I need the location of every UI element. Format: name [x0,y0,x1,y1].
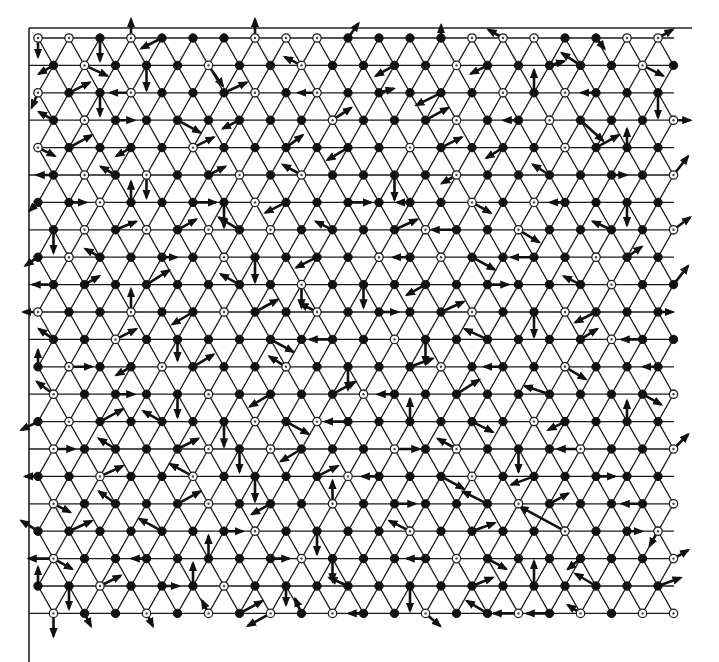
filled-node [142,500,150,508]
diagonal-bond [488,257,504,284]
diagonal-bond [302,120,318,147]
filled-node [638,171,646,179]
diagonal-bond [410,559,426,586]
filled-node [561,582,569,590]
filled-node [204,335,212,343]
filled-node [406,198,414,206]
filled-node [297,609,305,617]
diagonal-bond [395,367,411,394]
open-node-center [130,311,132,313]
filled-node [111,226,119,234]
open-node-center [424,229,426,231]
diagonal-bond [317,339,333,366]
filled-node [158,417,166,425]
filled-node [375,198,383,206]
diagonal-bond [116,394,132,421]
filled-node [607,171,615,179]
diagonal-bond [658,285,674,312]
filled-node [638,280,646,288]
open-node-center [269,612,271,614]
diagonal-bond [581,531,597,558]
diagonal-bond [131,531,147,558]
filled-node [251,472,259,480]
diagonal-bond [395,257,411,284]
filled-node [173,280,181,288]
filled-node [251,143,259,151]
filled-node [452,335,460,343]
diagonal-bond [286,312,302,339]
filled-node [654,198,662,206]
diagonal-bond [317,148,333,175]
filled-node [375,89,383,97]
diagonal-bond [379,175,395,202]
open-node-center [145,174,147,176]
filled-node [576,171,584,179]
diagonal-bond [410,93,426,120]
diagonal-bond [69,586,85,613]
filled-node [623,527,631,535]
filled-node [406,89,414,97]
diagonal-bond [534,230,550,257]
diagonal-bond [240,339,256,366]
diagonal-bond [627,422,643,449]
diagonal-bond [627,559,643,586]
diagonal-bond [286,476,302,503]
filled-node [530,89,538,97]
open-node-center [52,503,54,505]
diagonal-bond [364,476,380,503]
diagonal-bond [503,148,519,175]
diagonal-bond [348,586,364,613]
diagonal-bond [581,38,597,65]
diagonal-bond [550,257,566,284]
diagonal-bond [627,285,643,312]
diagonal-bond [116,120,132,147]
filled-node [359,116,367,124]
filled-node [49,226,57,234]
diagonal-bond [612,202,628,229]
filled-node [282,253,290,261]
filled-node [638,500,646,508]
filled-node [142,61,150,69]
diagonal-bond [364,148,380,175]
diagonal-bond [333,339,349,366]
filled-node [127,582,135,590]
filled-node [421,445,429,453]
diagonal-bond [488,504,504,531]
filled-node [204,280,212,288]
filled-node [592,527,600,535]
open-node-center [83,64,85,66]
diagonal-bond [581,367,597,394]
diagonal-bond [224,339,240,366]
diagonal-bond [627,175,643,202]
filled-node [638,335,646,343]
diagonal-bond [596,175,612,202]
open-node-center [52,393,54,395]
diagonal-bond [612,476,628,503]
filled-node [514,554,522,562]
filled-node [452,609,460,617]
open-node-center [52,448,54,450]
filled-node [313,253,321,261]
diagonal-bond [116,586,132,613]
diagonal-bond [596,148,612,175]
filled-node [189,253,197,261]
filled-node [251,582,259,590]
diagonal-bond [534,65,550,92]
filled-node [189,417,197,425]
diagonal-bond [410,449,426,476]
filled-node [638,390,646,398]
filled-node [266,554,274,562]
filled-node [654,89,662,97]
open-node-center [130,92,132,94]
diagonal-bond [379,504,395,531]
filled-node [251,363,259,371]
diagonal-bond [224,504,240,531]
filled-node [421,390,429,398]
open-node-center [672,119,674,121]
filled-node [545,445,553,453]
filled-node [189,527,197,535]
filled-node [344,34,352,42]
filled-node [406,472,414,480]
filled-node [220,89,228,97]
diagonal-bond [224,367,240,394]
